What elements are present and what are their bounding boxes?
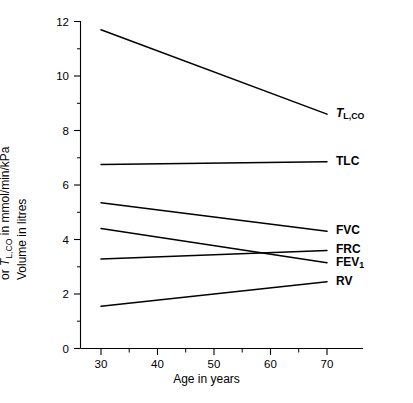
series-line-tlc [101,162,327,165]
y-tick-label-8: 8 [63,125,69,137]
series-lines-group [101,30,327,307]
x-tick-label-50: 50 [208,358,221,370]
series-label-rv: RV [336,274,352,288]
line-chart-plot: 0 2 4 6 8 10 12 30 40 50 60 70 TL,COTLCF… [0,0,413,403]
chart-figure: 0 2 4 6 8 10 12 30 40 50 60 70 TL,COTLCF… [0,0,413,403]
y-tick-label-12: 12 [56,16,69,28]
y-tick-label-10: 10 [56,70,69,82]
y-axis-title-symbol: T [0,259,12,266]
series-label-fev1: FEV1 [336,255,364,270]
x-tick-label-30: 30 [95,358,108,370]
y-tick-label-2: 2 [63,288,69,300]
series-label-tlc: TLC [336,154,360,168]
y-axis-title-line2: or TL,CO in mmol/min/kPa [0,146,14,280]
x-tick-label-60: 60 [264,358,277,370]
y-axis-major-ticks [74,22,81,349]
y-axis-title: Volume in litres or TL,CO in mmol/min/kP… [14,100,54,280]
series-labels-group: TL,COTLCFVCFRCFEV1RV [336,106,365,288]
x-axis-title: Age in years [0,372,413,386]
x-tick-label-40: 40 [151,358,164,370]
y-tick-label-4: 4 [63,234,70,246]
series-label-fvc: FVC [336,223,360,237]
series-line-fvc [101,203,327,232]
y-tick-label-0: 0 [63,343,69,355]
series-label-tl-co: TL,CO [336,106,365,121]
y-axis-title-prefix: or [0,266,12,280]
y-axis-title-symbol-subscript: L,CO [4,239,14,259]
y-tick-label-6: 6 [63,179,69,191]
y-axis-title-suffix: in mmol/min/kPa [0,146,12,238]
series-line-rv [101,282,327,307]
series-line-tl-co [101,30,327,114]
y-axis-title-line1: Volume in litres [16,199,28,280]
x-axis-major-ticks [101,349,327,356]
x-tick-label-70: 70 [321,358,334,370]
